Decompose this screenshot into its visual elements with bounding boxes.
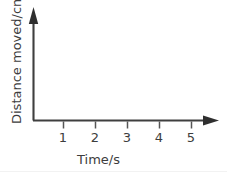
x-tick-label-2: 2 (85, 131, 105, 144)
x-axis-arrow-icon (203, 116, 219, 126)
scan-artifact-line (0, 171, 227, 172)
x-tick-label-3: 3 (117, 131, 137, 144)
axes-drawing (0, 0, 227, 177)
x-tick-label-5: 5 (181, 131, 201, 144)
x-axis-title: Time/s (0, 152, 227, 167)
y-axis-title: Distance moved/cm (10, 16, 24, 124)
x-tick-label-1: 1 (53, 131, 73, 144)
y-axis-arrow-icon (29, 7, 38, 24)
y-axis-title-text: Distance moved/cm (10, 16, 24, 124)
x-tick-label-4: 4 (149, 131, 169, 144)
x-axis-title-text: Time/s (77, 152, 120, 167)
graph-figure: 1 2 3 4 5 Time/s Distance moved/cm (0, 0, 227, 177)
